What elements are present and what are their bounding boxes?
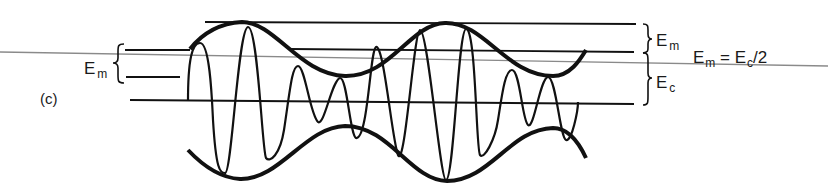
top-reference-line xyxy=(205,22,636,24)
right-brace-ec xyxy=(643,53,652,105)
lower-envelope xyxy=(188,126,586,181)
left-em-label: Em xyxy=(84,59,107,81)
am-modulation-diagram: Em (c) Em Ec Em = Ec/2 xyxy=(0,0,828,193)
right-ec-label: Ec xyxy=(656,73,675,95)
equation-label: Em = Ec/2 xyxy=(693,48,767,70)
left-brace xyxy=(113,44,124,83)
panel-label: (c) xyxy=(40,90,58,107)
right-em-label: Em xyxy=(656,31,679,53)
right-brace-em xyxy=(643,24,652,53)
zero-axis-line xyxy=(130,100,634,104)
